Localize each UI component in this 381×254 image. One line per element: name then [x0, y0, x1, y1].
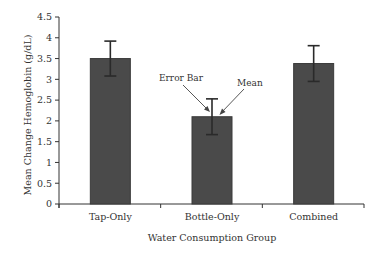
y-tick-label: 0 [46, 198, 52, 209]
y-axis-title: Mean Change Hemoglobin (g/dL) [22, 35, 33, 196]
y-tick-label: 1 [46, 157, 52, 168]
annotation-mean-arrow [221, 89, 244, 113]
y-tick-label: 3.5 [37, 53, 52, 64]
category-label: Tap-Only [89, 211, 132, 222]
y-axis: 00.511.522.533.544.5 [37, 11, 59, 209]
bar-chart: 00.511.522.533.544.5 Tap-OnlyBottle-Only… [0, 0, 381, 254]
annotation-error-bar-arrow [183, 85, 209, 111]
y-tick-label: 0.5 [37, 178, 52, 189]
y-tick-label: 1.5 [37, 136, 52, 147]
category-label: Bottle-Only [185, 211, 240, 222]
error-bars [104, 41, 319, 135]
x-axis-title: Water Consumption Group [148, 232, 277, 243]
annotations: Error Bar Mean [159, 73, 263, 115]
annotation-error-bar: Error Bar [159, 73, 204, 83]
y-tick-label: 3 [46, 74, 52, 85]
y-tick-label: 2 [46, 115, 52, 126]
y-tick-label: 2.5 [37, 94, 52, 105]
bar-combined [294, 64, 334, 204]
category-labels: Tap-OnlyBottle-OnlyCombined [89, 211, 338, 222]
category-label: Combined [289, 211, 338, 222]
y-tick-label: 4 [46, 32, 52, 43]
x-axis [59, 204, 364, 208]
bar-tap-only [90, 59, 130, 204]
annotation-mean: Mean [237, 78, 263, 88]
y-tick-label: 4.5 [37, 11, 52, 22]
